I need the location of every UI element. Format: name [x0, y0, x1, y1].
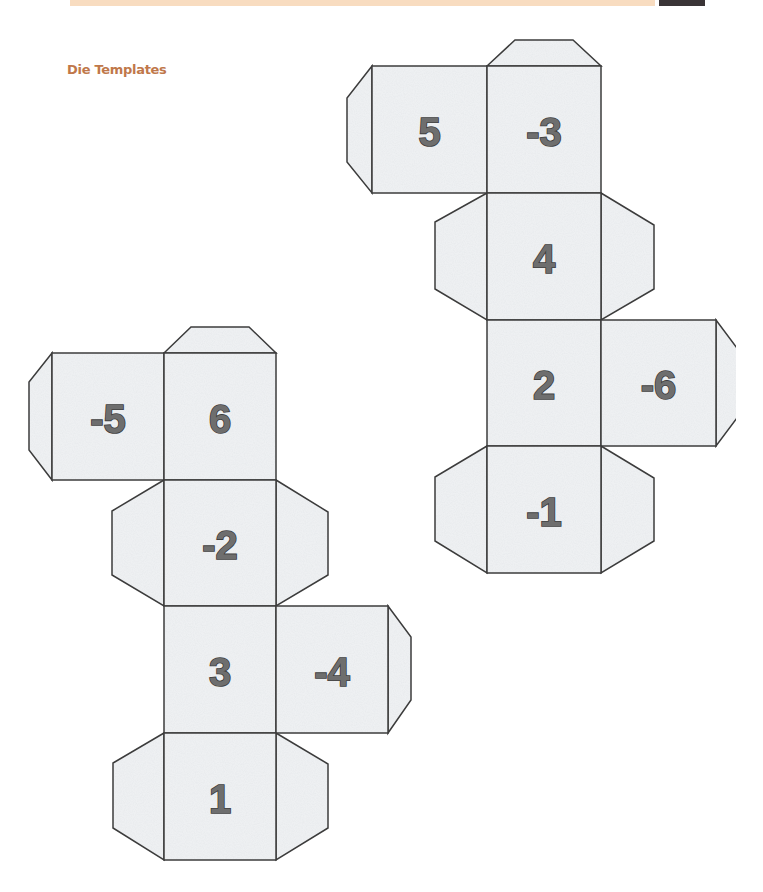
die-face-number: -4	[314, 650, 350, 694]
glue-flap	[435, 446, 487, 573]
die-face-number: 2	[533, 363, 555, 407]
die-face: -2	[164, 480, 276, 606]
glue-flap	[112, 480, 164, 606]
glue-flap	[276, 733, 328, 860]
glue-flap	[388, 606, 411, 733]
glue-flap	[435, 193, 487, 320]
die-face: -5	[52, 353, 164, 480]
glue-flap	[113, 733, 164, 860]
die-templates-canvas: 5-342-6-1 -56-23-41	[0, 0, 763, 892]
die-net-left: -56-23-41	[29, 327, 411, 860]
die-net-right: 5-342-6-1	[347, 40, 740, 573]
die-face: 3	[164, 606, 276, 733]
die-face-number: 1	[209, 777, 231, 821]
die-face-number: -5	[90, 397, 126, 441]
glue-flap	[347, 66, 372, 193]
die-face-number: -6	[641, 363, 677, 407]
glue-flap	[716, 320, 740, 446]
glue-flap	[487, 40, 601, 66]
die-face: 6	[164, 353, 276, 480]
glue-flap	[29, 353, 52, 480]
glue-flap	[276, 480, 328, 606]
die-face: -4	[276, 606, 388, 733]
die-face-number: 4	[533, 237, 556, 281]
die-face-number: 6	[209, 397, 231, 441]
die-face: 2	[487, 320, 601, 446]
die-face-number: 5	[418, 110, 440, 154]
die-face-number: 3	[209, 650, 231, 694]
die-face-number: -2	[202, 523, 238, 567]
glue-flap	[164, 327, 276, 353]
die-face: 5	[372, 66, 487, 193]
die-face: -3	[487, 66, 601, 193]
die-face: 1	[164, 733, 276, 860]
glue-flap	[601, 446, 654, 573]
die-face: 4	[487, 193, 601, 320]
die-face: -6	[601, 320, 716, 446]
glue-flap	[601, 193, 654, 320]
die-face-number: -3	[526, 110, 562, 154]
die-face: -1	[487, 446, 601, 573]
die-face-number: -1	[526, 490, 562, 534]
